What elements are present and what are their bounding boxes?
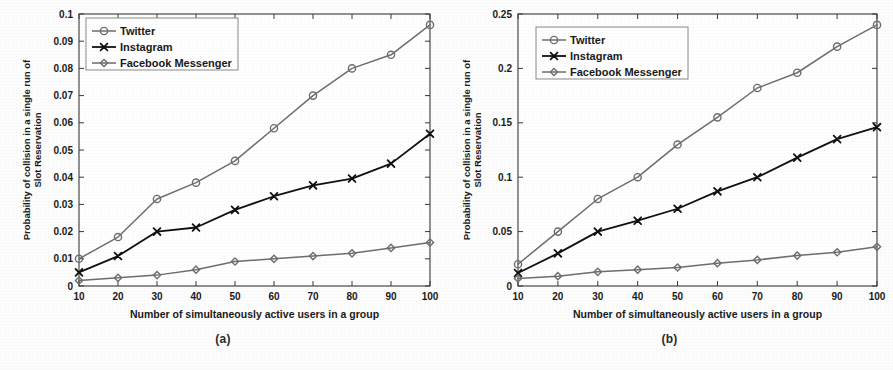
x-tick-label: 30: [151, 291, 163, 302]
figure-container: 10203040506070809010000.010.020.030.040.…: [0, 0, 893, 370]
y-tick-label: 0.25: [493, 9, 513, 20]
x-axis-label: Number of simultaneously active users in…: [130, 308, 379, 320]
y-tick-label: 0: [67, 281, 73, 292]
x-tick-label: 10: [512, 291, 524, 302]
x-tick-label: 10: [73, 291, 85, 302]
y-tick-label: 0.1: [59, 9, 73, 20]
subfigure-b: 10203040506070809010000.050.10.150.20.25…: [446, 0, 893, 370]
x-tick-label: 20: [552, 291, 564, 302]
legend: TwitterInstagramFacebook Messenger: [536, 27, 688, 79]
legend-label: Instagram: [120, 41, 173, 53]
chart-a: 10203040506070809010000.010.020.030.040.…: [0, 0, 446, 332]
legend: TwitterInstagramFacebook Messenger: [86, 18, 238, 70]
x-tick-label: 60: [712, 291, 724, 302]
x-tick-label: 40: [632, 291, 644, 302]
y-axis-label-line: Slot Reservation: [472, 112, 483, 187]
legend-label: Twitter: [570, 34, 606, 46]
y-tick-label: 0: [506, 281, 512, 292]
x-tick-label: 70: [752, 291, 764, 302]
x-tick-label: 80: [346, 291, 358, 302]
y-tick-label: 0.02: [54, 226, 74, 237]
y-tick-label: 0.04: [54, 172, 74, 183]
y-axis-label-line: Probability of collision in a single run…: [21, 59, 32, 240]
plot-area-a: 10203040506070809010000.010.020.030.040.…: [0, 0, 446, 332]
chart-b: 10203040506070809010000.050.10.150.20.25…: [446, 0, 893, 332]
y-tick-label: 0.15: [493, 117, 513, 128]
legend-label: Facebook Messenger: [120, 57, 233, 69]
x-tick-label: 40: [190, 291, 202, 302]
y-axis-label-line: Probability of collision in a single run…: [461, 59, 472, 240]
y-axis-label: Probability of collision in a single run…: [21, 59, 43, 240]
x-tick-label: 60: [268, 291, 280, 302]
x-tick-label: 30: [592, 291, 604, 302]
legend-label: Facebook Messenger: [570, 66, 683, 78]
x-tick-label: 80: [792, 291, 804, 302]
y-axis-label: Probability of collision in a single run…: [461, 59, 483, 240]
x-axis-label: Number of simultaneously active users in…: [573, 308, 822, 320]
legend-label: Instagram: [570, 50, 623, 62]
x-tick-label: 70: [307, 291, 319, 302]
x-tick-label: 100: [422, 291, 439, 302]
x-tick-label: 20: [112, 291, 124, 302]
x-tick-label: 50: [229, 291, 241, 302]
y-tick-label: 0.05: [493, 226, 513, 237]
plot-area-b: 10203040506070809010000.050.10.150.20.25…: [446, 0, 893, 332]
y-tick-label: 0.07: [54, 90, 74, 101]
y-axis-label-line: Slot Reservation: [32, 112, 43, 187]
y-tick-label: 0.2: [498, 63, 512, 74]
y-tick-label: 0.1: [498, 172, 512, 183]
x-tick-label: 90: [385, 291, 397, 302]
subfigure-caption-b: (b): [446, 332, 893, 346]
x-tick-label: 50: [672, 291, 684, 302]
y-tick-label: 0.08: [54, 63, 74, 74]
y-tick-label: 0.01: [54, 253, 74, 264]
x-tick-label: 90: [832, 291, 844, 302]
y-tick-label: 0.09: [54, 36, 74, 47]
legend-label: Twitter: [120, 25, 156, 37]
subfigure-a: 10203040506070809010000.010.020.030.040.…: [0, 0, 446, 370]
x-tick-label: 100: [869, 291, 886, 302]
y-tick-label: 0.06: [54, 117, 74, 128]
y-tick-label: 0.05: [54, 145, 74, 156]
subfigure-caption-a: (a): [0, 332, 446, 346]
y-tick-label: 0.03: [54, 199, 74, 210]
